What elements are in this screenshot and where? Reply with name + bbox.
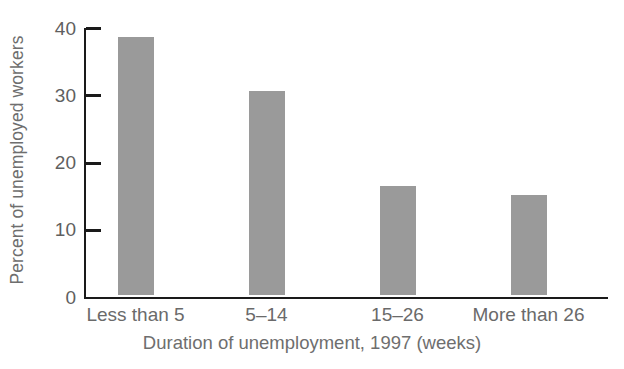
- y-tick-mark: [86, 94, 101, 97]
- bar: [249, 91, 285, 295]
- y-axis-title: Percent of unemployed workers: [4, 10, 30, 310]
- bar: [511, 195, 547, 295]
- y-tick-label: 20: [55, 152, 76, 174]
- x-axis-title: Duration of unemployment, 1997 (weeks): [0, 332, 624, 354]
- y-tick-label: 0: [65, 287, 76, 309]
- x-axis-line: [84, 297, 608, 299]
- y-tick-mark: [86, 229, 101, 232]
- plot-area: 010203040 Less than 55–1415–26More than …: [84, 28, 608, 297]
- bar-chart: Percent of unemployed workers 010203040 …: [0, 0, 624, 369]
- y-tick-mark: [86, 27, 101, 30]
- x-category-label: More than 26: [473, 304, 585, 326]
- bar: [380, 186, 416, 295]
- y-tick-label: 30: [55, 85, 76, 107]
- x-category-label: 15–26: [371, 304, 424, 326]
- y-tick-mark: [86, 162, 101, 165]
- x-category-label: 5–14: [245, 304, 287, 326]
- bar: [118, 37, 154, 295]
- y-tick-label: 40: [55, 18, 76, 40]
- y-tick-label: 10: [55, 219, 76, 241]
- x-category-label: Less than 5: [86, 304, 184, 326]
